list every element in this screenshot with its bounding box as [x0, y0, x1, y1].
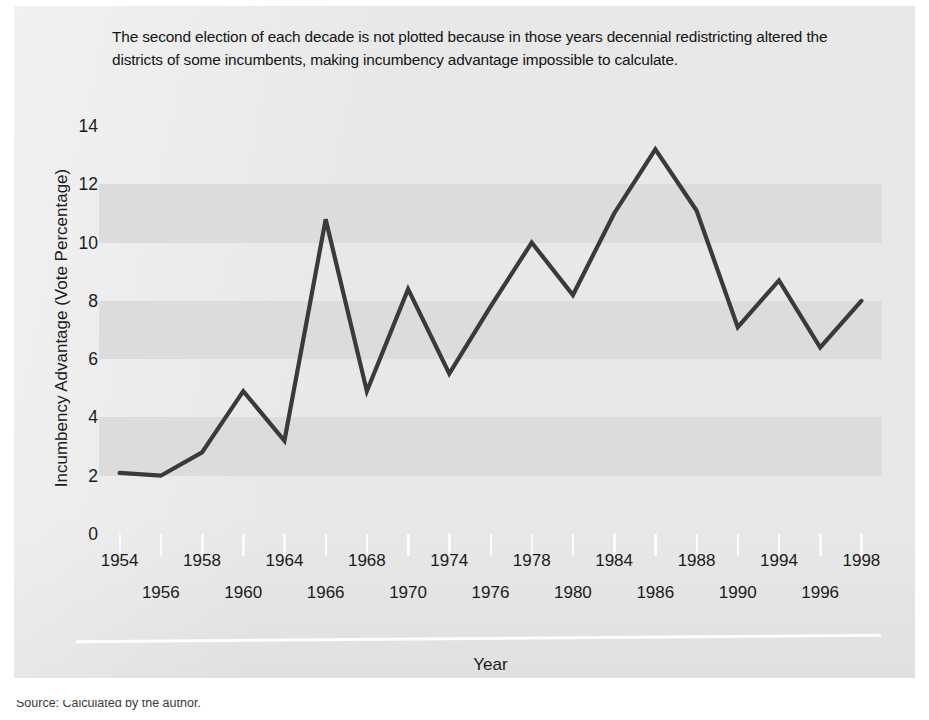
x-axis-tick-label: 1968 [348, 551, 386, 571]
source-caption-text: Source: Calculated by the author. [16, 700, 516, 710]
x-axis-tick-label: 1998 [842, 551, 880, 571]
y-axis-tick-label: 2 [88, 465, 98, 486]
x-axis-tick-label: 1994 [760, 551, 798, 571]
x-axis-tick [819, 534, 822, 556]
x-axis-tick-label: 1960 [224, 583, 262, 603]
x-axis-tick-label: 1986 [636, 583, 674, 603]
x-axis-title: Year [99, 655, 882, 675]
x-axis-tick-label: 1974 [430, 551, 468, 571]
x-axis-tick-label: 1966 [307, 583, 345, 603]
x-axis-tick-label: 1958 [183, 551, 221, 571]
x-axis-tick [490, 534, 493, 556]
y-axis-tick-label: 6 [88, 349, 98, 370]
x-axis-tick-label: 1978 [513, 551, 551, 571]
line-chart-svg [99, 126, 882, 534]
line-series-container [99, 126, 882, 534]
y-axis-tick-label: 4 [88, 407, 98, 428]
x-axis: 1954195619581960196419661968197019741976… [99, 534, 882, 610]
x-axis-tick-label: 1988 [678, 551, 716, 571]
y-axis-tick-label: 14 [79, 116, 98, 137]
x-axis-tick [654, 534, 657, 556]
x-axis-tick-label: 1964 [266, 551, 304, 571]
source-caption: Source: Calculated by the author. [16, 700, 516, 718]
plot-area [99, 126, 882, 534]
x-axis-tick [160, 534, 163, 556]
x-axis-tick-label: 1984 [595, 551, 633, 571]
y-axis-tick-label: 12 [79, 174, 98, 195]
x-axis-tick-label: 1956 [142, 583, 180, 603]
x-axis-tick [325, 534, 328, 556]
x-axis-tick [242, 534, 245, 556]
x-axis-tick [572, 534, 575, 556]
x-axis-tick [407, 534, 410, 556]
figure-note: The second election of each decade is no… [112, 26, 882, 71]
x-axis-tick-label: 1996 [801, 583, 839, 603]
x-axis-tick-label: 1954 [101, 551, 139, 571]
x-axis-tick-label: 1990 [719, 583, 757, 603]
incumbency-advantage-line [120, 149, 862, 475]
x-axis-tick [737, 534, 740, 556]
x-axis-tick-label: 1980 [554, 583, 592, 603]
page-root: The second election of each decade is no… [0, 0, 929, 720]
x-axis-tick-label: 1976 [472, 583, 510, 603]
x-axis-tick-label: 1970 [389, 583, 427, 603]
y-axis-tick-label: 8 [88, 290, 98, 311]
y-axis-title: Incumbency Advantage (Vote Percentage) [52, 118, 72, 538]
y-axis-tick-label: 10 [79, 232, 98, 253]
y-axis-tick-label: 0 [88, 524, 98, 545]
